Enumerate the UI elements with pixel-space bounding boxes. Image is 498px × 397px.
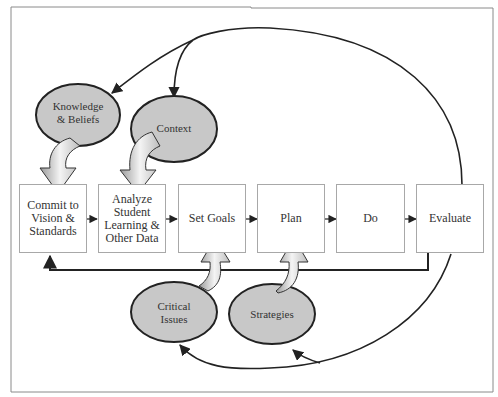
step-label: Commit to Vision & Standards xyxy=(23,199,83,238)
influence-label: Critical Issues xyxy=(153,300,195,326)
label-knowledge-beliefs: Knowledge & Beliefs xyxy=(46,100,110,126)
step-do: Do xyxy=(336,184,405,253)
influence-label: Knowledge & Beliefs xyxy=(50,100,106,126)
label-strategies: Strategies xyxy=(240,306,304,322)
step-label: Evaluate xyxy=(429,212,471,225)
step-label: Do xyxy=(363,212,378,225)
label-context: Context xyxy=(140,120,208,136)
step-label: Plan xyxy=(280,212,301,225)
step-plan: Plan xyxy=(257,184,325,253)
arrow-to-strategies xyxy=(293,350,320,363)
step-set-goals: Set Goals xyxy=(178,184,246,253)
feedback-loop-top xyxy=(193,28,462,185)
influence-label: Context xyxy=(157,122,192,135)
step-evaluate: Evaluate xyxy=(416,184,484,253)
influence-label: Strategies xyxy=(250,308,293,321)
return-line xyxy=(50,253,428,270)
label-critical-issues: Critical Issues xyxy=(144,300,204,326)
step-commit-vision: Commit to Vision & Standards xyxy=(19,184,87,253)
step-label: Analyze Student Learning & Other Data xyxy=(102,193,162,245)
arrow-to-knowledge xyxy=(112,40,193,93)
step-label: Set Goals xyxy=(189,212,235,225)
step-analyze-data: Analyze Student Learning & Other Data xyxy=(98,184,166,253)
